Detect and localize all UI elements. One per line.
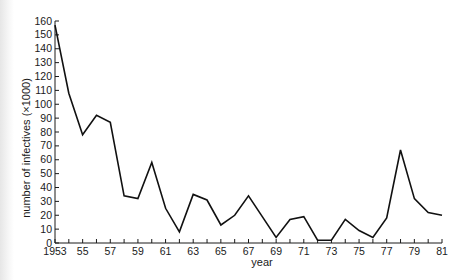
y-tick-label: 130 <box>34 56 52 68</box>
y-tick-label: 90 <box>40 112 52 124</box>
y-tick-label: 160 <box>34 15 52 27</box>
y-tick-label: 30 <box>40 195 52 207</box>
x-tick-label: 73 <box>326 245 338 257</box>
x-tick-label: 65 <box>215 245 227 257</box>
x-axis-title: year <box>251 256 273 268</box>
x-tick-label: 79 <box>409 245 421 257</box>
y-tick-label: 60 <box>40 153 52 165</box>
x-tick-label: 59 <box>132 245 144 257</box>
x-tick-label: 71 <box>298 245 310 257</box>
y-tick-label: 110 <box>35 84 52 96</box>
y-tick-label: 140 <box>34 42 52 54</box>
line-chart: 0102030405060708090100110120130140150160… <box>0 0 469 280</box>
x-tick-label: 75 <box>353 245 365 257</box>
y-tick-label: 150 <box>34 28 52 40</box>
y-tick-label: 120 <box>34 70 52 82</box>
x-tick-label: 63 <box>187 245 199 257</box>
y-tick-label: 50 <box>40 167 52 179</box>
y-tick-label: 80 <box>40 126 52 138</box>
y-tick-label: 40 <box>40 181 52 193</box>
x-axis: 19535557596163656769717375777981 <box>43 239 448 257</box>
x-tick-label: 57 <box>104 245 116 257</box>
infectives-series-line <box>55 25 442 240</box>
x-tick-label: 81 <box>436 245 448 257</box>
x-tick-label: 77 <box>381 245 393 257</box>
y-tick-label: 20 <box>40 209 52 221</box>
y-axis: 0102030405060708090100110120130140150160 <box>34 15 59 249</box>
x-tick-label: 55 <box>77 245 89 257</box>
y-tick-label: 100 <box>34 98 52 110</box>
y-axis-title: number of infectives (×1000) <box>20 78 32 218</box>
x-tick-label: 1953 <box>43 245 67 257</box>
x-tick-label: 61 <box>160 245 172 257</box>
y-tick-label: 10 <box>40 223 52 235</box>
y-tick-label: 70 <box>40 139 52 151</box>
